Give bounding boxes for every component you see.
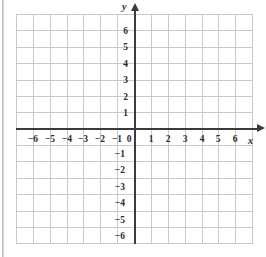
y-tick-label: −2 — [105, 166, 125, 176]
y-tick-label: −3 — [105, 183, 125, 193]
y-axis-name-label: y — [122, 2, 126, 12]
y-tick-label: 3 — [108, 76, 128, 86]
graph-page: y x 0 −6 −5 −4 −3 −2 −1 1 2 3 4 5 6 6 5 … — [0, 0, 266, 257]
x-axis-arrow-icon — [257, 124, 265, 132]
x-tick-label: −1 — [107, 135, 127, 145]
y-tick-label: 6 — [108, 27, 128, 37]
x-axis-name-label: x — [248, 136, 253, 146]
y-tick-label: 4 — [108, 60, 128, 70]
y-tick-label: −1 — [105, 150, 125, 160]
y-axis-line — [134, 9, 136, 244]
page-edge-rule-soft — [3, 0, 4, 257]
y-tick-label: −4 — [105, 199, 125, 209]
y-tick-label: −6 — [105, 232, 125, 242]
coordinate-grid: y x 0 −6 −5 −4 −3 −2 −1 1 2 3 4 5 6 6 5 … — [16, 14, 252, 244]
y-tick-label: 1 — [108, 109, 128, 119]
y-axis-arrow-icon — [131, 3, 139, 11]
y-tick-label: −5 — [105, 216, 125, 226]
x-tick-label: 6 — [225, 135, 245, 145]
y-tick-label: 5 — [108, 43, 128, 53]
y-tick-label: 2 — [108, 93, 128, 103]
x-axis-line — [16, 128, 259, 130]
